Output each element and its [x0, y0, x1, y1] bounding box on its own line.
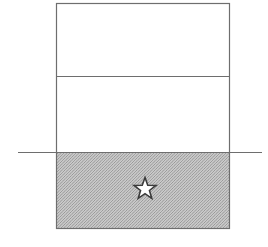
diagram-canvas	[0, 0, 268, 247]
technical-diagram	[0, 0, 268, 247]
